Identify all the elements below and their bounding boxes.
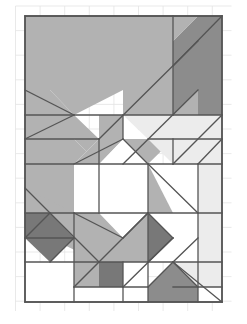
bottom-right-corner-light [198, 262, 222, 287]
lower-white-strip [74, 287, 123, 302]
bottom-white-panel [123, 262, 148, 302]
lower-left-white [25, 262, 74, 302]
geometric-figure [0, 0, 247, 324]
figure-canvas [0, 0, 247, 324]
